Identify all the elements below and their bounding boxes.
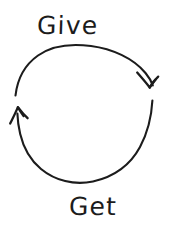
arrow-get-to-give <box>10 101 152 183</box>
node-label-give: Give <box>37 13 99 38</box>
give-get-cycle-diagram: Give Get <box>0 0 170 231</box>
arc-give-to-get-body <box>16 45 153 95</box>
node-label-get: Get <box>69 194 118 219</box>
arc-get-to-give-body <box>17 101 152 183</box>
arrow-give-to-get <box>16 45 159 95</box>
